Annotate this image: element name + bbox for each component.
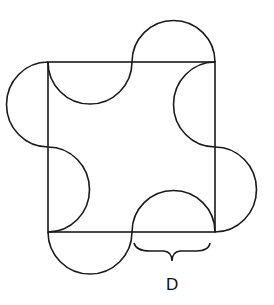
top-inner-semicircle: [48, 62, 132, 104]
dimension-label: D: [166, 275, 178, 294]
dimension-brace: [134, 243, 210, 261]
square: [48, 62, 215, 232]
left-outer-semicircle: [6, 62, 48, 147]
left-inner-semicircle: [48, 147, 90, 232]
right-outer-semicircle: [215, 147, 257, 232]
right-inner-semicircle: [174, 62, 216, 147]
diagram-canvas: D: [0, 0, 274, 305]
bottom-outer-semicircle: [48, 232, 132, 274]
bottom-inner-semicircle: [132, 190, 215, 232]
top-outer-semicircle: [132, 20, 215, 62]
